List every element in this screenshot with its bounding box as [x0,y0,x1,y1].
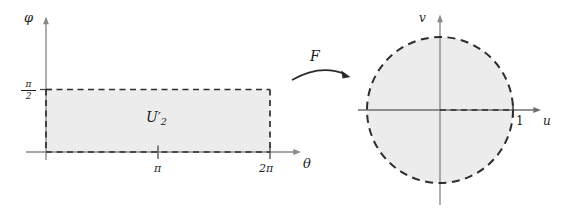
phi-tick-label-denominator: 2 [21,91,36,101]
u-axis-arrowhead [533,107,541,113]
theta-axis-arrowhead [293,149,301,155]
region-label-base: U [146,109,158,125]
u-radius-label-one: 1 [516,115,524,127]
phi-tick-label-pi-over-2: π 2 [21,80,36,101]
theta-tick-label-2pi: 2π [259,163,273,174]
u-axis-label: u [543,115,551,127]
region-label-u2prime: U′2 [146,110,167,127]
diagram-vector-layer [0,0,562,212]
theta-axis-label: θ [303,157,311,170]
figure-canvas: φ π 2 U′2 π 2π θ F v 1 u [0,0,562,212]
region-label-subscript: 2 [161,116,167,127]
v-axis-arrowhead [437,15,443,23]
theta-tick-label-pi: π [154,163,161,174]
map-arrow-head [341,71,350,79]
phi-axis-arrowhead [43,17,49,25]
phi-tick-label-numerator: π [21,80,36,91]
map-arrow-label: F [310,49,320,63]
v-axis-label: v [419,12,426,24]
phi-axis-label: φ [24,11,33,24]
map-arrow-curve [292,70,345,80]
